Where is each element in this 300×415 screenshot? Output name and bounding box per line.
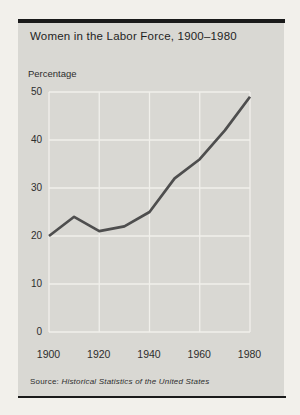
y-tick-label: 10 (18, 278, 42, 289)
x-axis-tick-labels: 19001920194019601980 (49, 348, 250, 362)
y-tick-label: 0 (18, 326, 42, 337)
x-tick-label: 1980 (232, 348, 268, 360)
y-axis-title: Percentage (28, 68, 77, 79)
x-tick-label: 1920 (81, 348, 117, 360)
y-tick-label: 20 (18, 230, 42, 241)
chart-plot (49, 92, 250, 332)
y-tick-label: 40 (18, 134, 42, 145)
y-axis-tick-labels: 01020304050 (18, 92, 42, 332)
bottom-rule (18, 396, 286, 398)
chart-title: Women in the Labor Force, 1900–1980 (30, 30, 237, 42)
x-tick-label: 1940 (131, 348, 167, 360)
figure-card: Women in the Labor Force, 1900–1980 Perc… (18, 23, 284, 397)
source-title: Historical Statistics of the United Stat… (61, 377, 209, 386)
x-tick-label: 1960 (181, 348, 217, 360)
y-tick-label: 50 (18, 86, 42, 97)
source-note: Source: Historical Statistics of the Uni… (30, 377, 209, 386)
x-tick-label: 1900 (31, 348, 67, 360)
source-label: Source: (30, 377, 59, 386)
y-tick-label: 30 (18, 182, 42, 193)
